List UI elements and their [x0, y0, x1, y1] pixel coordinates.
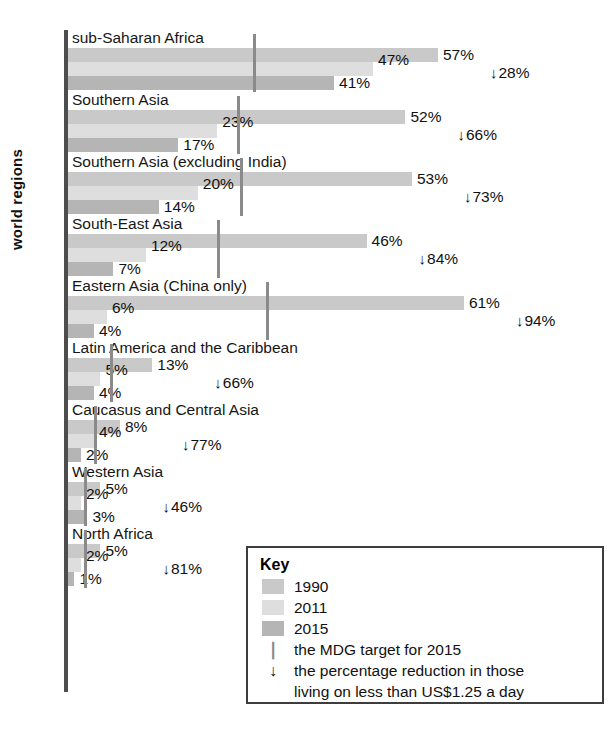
- down-arrow-icon: ↓: [262, 660, 284, 681]
- mdg-target-marker: [240, 158, 243, 216]
- region-label: Caucasus and Central Asia: [68, 400, 613, 420]
- reduction-value: 81%: [171, 560, 202, 577]
- key-row: ↓the percentage reduction in thoseliving…: [260, 660, 592, 702]
- region-bars: 52%23%17%↓66%: [68, 110, 613, 152]
- reduction-value: 94%: [524, 312, 555, 329]
- region-label: North Africa: [68, 524, 613, 544]
- reduction-annotation: ↓81%: [162, 560, 202, 578]
- reduction-value: 66%: [466, 126, 497, 143]
- bar-value-label: 13%: [154, 357, 188, 373]
- bar-2015: [68, 572, 74, 586]
- mdg-target-marker: [84, 468, 87, 526]
- reduction-value: 28%: [498, 64, 529, 81]
- bar-2015: [68, 200, 159, 214]
- bar-value-label: 4%: [96, 424, 121, 440]
- mdg-target-marker: [217, 220, 220, 278]
- reduction-annotation: ↓73%: [464, 188, 504, 206]
- reduction-value: 84%: [427, 250, 458, 267]
- bar-row-1990: 52%: [68, 110, 613, 124]
- reduction-annotation: ↓46%: [162, 498, 202, 516]
- down-arrow-icon: ↓: [214, 374, 223, 391]
- bar-value-label: 61%: [466, 295, 500, 311]
- reduction-annotation: ↓94%: [516, 312, 556, 330]
- bar-2015: [68, 138, 178, 152]
- region-bars: 5%2%3%↓46%: [68, 482, 613, 524]
- bar-row-2015: 14%: [68, 200, 613, 214]
- key-row: 1990: [260, 576, 592, 597]
- region-group: Southern Asia52%23%17%↓66%: [68, 90, 613, 152]
- bar-2015: [68, 386, 94, 400]
- chart-legend-key: Key 199020112015❘the MDG target for 2015…: [246, 546, 604, 704]
- key-swatch-2011: [262, 600, 284, 615]
- down-arrow-icon: ↓: [457, 126, 466, 143]
- bar-value-label: 12%: [148, 238, 182, 254]
- bar-value-label: 8%: [122, 419, 147, 435]
- bar-row-1990: 8%: [68, 420, 613, 434]
- mdg-target-marker: [84, 530, 87, 588]
- bar-value-label: 41%: [336, 75, 370, 91]
- key-row: ❘the MDG target for 2015: [260, 639, 592, 660]
- region-label: Southern Asia (excluding India): [68, 152, 613, 172]
- region-group: Caucasus and Central Asia8%4%2%↓77%: [68, 400, 613, 462]
- mdg-target-marker: [237, 96, 240, 154]
- reduction-value: 66%: [223, 374, 254, 391]
- bar-value-label: 52%: [407, 109, 441, 125]
- region-bars: 46%12%7%↓84%: [68, 234, 613, 276]
- bar-row-1990: 13%: [68, 358, 613, 372]
- reduction-annotation: ↓66%: [457, 126, 497, 144]
- reduction-annotation: ↓77%: [182, 436, 222, 454]
- bar-value-label: 14%: [161, 199, 195, 215]
- region-bars: 61%6%4%↓94%: [68, 296, 613, 338]
- region-group: Western Asia5%2%3%↓46%: [68, 462, 613, 524]
- region-bars: 57%47%41%↓28%: [68, 48, 613, 90]
- region-label: Western Asia: [68, 462, 613, 482]
- bar-value-label: 7%: [115, 261, 140, 277]
- bar-row-2015: 41%: [68, 76, 613, 90]
- key-label: 1990: [294, 576, 592, 597]
- bar-row-2015: 4%: [68, 386, 613, 400]
- reduction-annotation: ↓66%: [214, 374, 254, 392]
- region-group: sub-Saharan Africa57%47%41%↓28%: [68, 28, 613, 90]
- region-bars: 53%20%14%↓73%: [68, 172, 613, 214]
- mdg-target-marker: [266, 282, 269, 340]
- bar-row-2015: 7%: [68, 262, 613, 276]
- bar-row-2011: 23%: [68, 124, 613, 138]
- reduction-value: 46%: [171, 498, 202, 515]
- key-rows: 199020112015❘the MDG target for 2015↓the…: [260, 576, 592, 702]
- bar-2015: [68, 76, 334, 90]
- bar-value-label: 20%: [200, 176, 234, 192]
- bar-2011: [68, 496, 81, 510]
- poverty-reduction-bar-chart: world regions sub-Saharan Africa57%47%41…: [0, 0, 613, 755]
- bar-value-label: 46%: [369, 233, 403, 249]
- key-row: 2015: [260, 618, 592, 639]
- bar-row-1990: 57%: [68, 48, 613, 62]
- key-label: 2011: [294, 597, 592, 618]
- region-group: South-East Asia46%12%7%↓84%: [68, 214, 613, 276]
- bar-row-1990: 5%: [68, 482, 613, 496]
- region-label: sub-Saharan Africa: [68, 28, 613, 48]
- region-bars: 8%4%2%↓77%: [68, 420, 613, 462]
- key-swatch-1990: [262, 579, 284, 594]
- bar-value-label: 17%: [180, 137, 214, 153]
- region-bars: 13%5%4%↓66%: [68, 358, 613, 400]
- key-swatch-2015: [262, 621, 284, 636]
- key-title: Key: [260, 555, 592, 575]
- bar-2015: [68, 324, 94, 338]
- bar-row-1990: 53%: [68, 172, 613, 186]
- mdg-target-marker: [110, 344, 113, 402]
- bar-row-2011: 20%: [68, 186, 613, 200]
- region-group: Eastern Asia (China only)61%6%4%↓94%: [68, 276, 613, 338]
- reduction-value: 77%: [190, 436, 221, 453]
- bar-row-1990: 61%: [68, 296, 613, 310]
- bar-value-label: 47%: [375, 52, 409, 68]
- key-label: 2015: [294, 618, 592, 639]
- bar-value-label: 57%: [440, 47, 474, 63]
- bar-value-label: 53%: [414, 171, 448, 187]
- bar-2011: [68, 372, 100, 386]
- region-label: Latin America and the Caribbean: [68, 338, 613, 358]
- reduction-annotation: ↓84%: [419, 250, 459, 268]
- bar-2011: [68, 62, 373, 76]
- down-arrow-icon: ↓: [162, 498, 171, 515]
- key-label: the percentage reduction in thoseliving …: [294, 660, 592, 702]
- bar-value-label: 4%: [96, 323, 121, 339]
